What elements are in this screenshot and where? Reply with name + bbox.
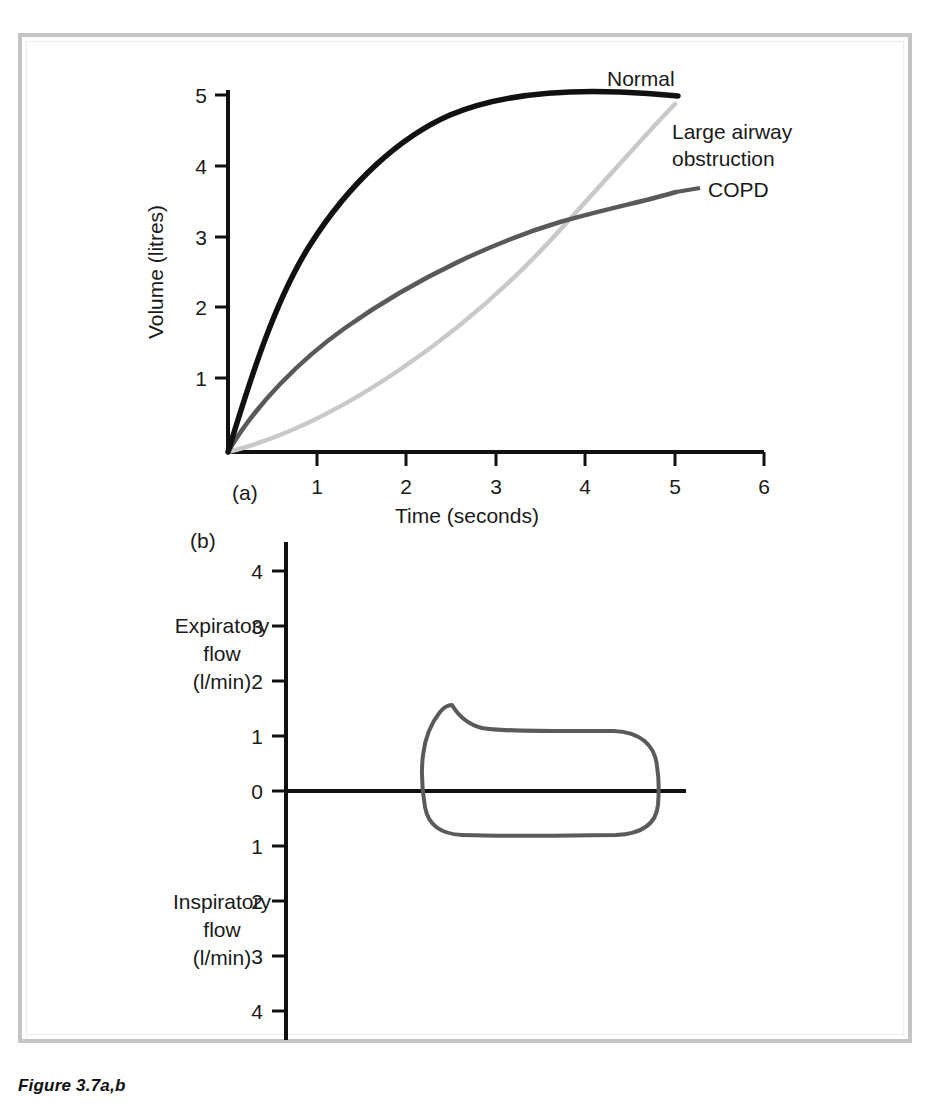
label-normal: Normal	[607, 67, 675, 90]
panel-b-inspiratory-line3: (l/min)	[193, 946, 251, 969]
label-large-airway-line1: Large airway	[672, 120, 793, 143]
flow-volume-loop-curve	[422, 705, 659, 836]
label-large-airway-line2: obstruction	[672, 147, 775, 170]
panel-b-y-tick-up-2: 2	[251, 670, 263, 693]
panel-a-y-tick-2: 2	[195, 296, 207, 319]
panel-b-y-tick-up-4: 4	[251, 560, 263, 583]
panel-a-y-tick-4: 4	[195, 155, 207, 178]
panel-a-y-tick-1: 1	[195, 367, 207, 390]
panel-b-inspiratory-line2: flow	[203, 918, 241, 941]
panel-a-y-axis-title: Volume (litres)	[144, 205, 167, 339]
panel-b-expiratory-line3: (l/min)	[193, 670, 251, 693]
panel-b-y-tick-up-1: 1	[251, 725, 263, 748]
panel-a-x-tick-2: 2	[400, 475, 412, 498]
panel-a-x-tick-4: 4	[579, 475, 591, 498]
panel-a-spirogram: 5 4 3 2 1 1 2 3 4 5 6 Volume (litres) Ti…	[0, 0, 931, 520]
curve-normal	[228, 91, 678, 452]
curve-large-airway-obstruction	[228, 104, 675, 452]
panel-b-y-tick-zero: 0	[251, 780, 263, 803]
panel-a-x-tick-6: 6	[758, 475, 770, 498]
panel-b-expiratory-line1: Expiratory	[175, 614, 270, 637]
copd-leader-line	[676, 188, 700, 192]
panel-b-y-tick-dn-1: 1	[251, 835, 263, 858]
panel-b-inspiratory-line1: Inspiratory	[173, 890, 272, 913]
panel-b-y-tick-dn-4: 4	[251, 1000, 263, 1023]
panel-b-y-tick-dn-3: 3	[251, 945, 263, 968]
label-copd: COPD	[708, 178, 769, 201]
panel-a-x-ticks	[317, 452, 764, 466]
panel-b-y-ticks	[272, 571, 286, 1011]
panel-a-x-tick-3: 3	[490, 475, 502, 498]
figure-caption: Figure 3.7a,b	[18, 1076, 125, 1096]
panel-b-flow-volume-loop: 4 3 2 1 0 1 2 3 4 Expiratory flow (l/min…	[0, 500, 931, 1080]
curve-copd	[228, 192, 676, 452]
panel-a-y-tick-3: 3	[195, 226, 207, 249]
panel-a-y-tick-5: 5	[195, 84, 207, 107]
panel-a-x-tick-5: 5	[669, 475, 681, 498]
panel-b-tag: (b)	[190, 529, 216, 552]
panel-b-expiratory-line2: flow	[203, 642, 241, 665]
panel-a-x-tick-1: 1	[311, 475, 323, 498]
